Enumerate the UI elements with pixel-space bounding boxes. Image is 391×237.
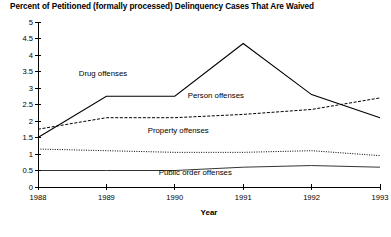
chart-container: Percent of Petitioned (formally processe… [0, 0, 391, 237]
x-tick-label: 1988 [30, 193, 47, 202]
series-line [38, 98, 380, 129]
x-axis-tick-labels: 198819891990199119921993 [30, 193, 389, 202]
x-axis-title: Year [201, 208, 218, 217]
x-tick-label: 1993 [372, 193, 389, 202]
y-tick-label: 1 [29, 150, 33, 159]
data-series-group [38, 43, 380, 170]
y-tick-label: 3.5 [22, 67, 33, 76]
series-label: Drug offenses [79, 69, 128, 78]
y-tick-label: 4 [29, 51, 33, 60]
y-tick-label: 4.5 [22, 34, 33, 43]
series-label: Person offenses [188, 91, 244, 100]
series-annotation-labels: Drug offensesPerson offensesProperty off… [79, 69, 244, 177]
line-chart-plot: 00.511.522.533.544.55 198819891990199119… [0, 0, 391, 237]
x-tick-label: 1992 [303, 193, 320, 202]
y-tick-label: 1.5 [22, 133, 33, 142]
x-tick-label: 1991 [235, 193, 252, 202]
y-tick-label: 0 [29, 183, 33, 192]
series-line [38, 149, 380, 156]
series-label: Public order offenses [159, 168, 232, 177]
series-label: Property offenses [148, 126, 209, 135]
y-axis-tick-labels: 00.511.522.533.544.55 [22, 18, 33, 192]
x-tick-label: 1990 [166, 193, 183, 202]
y-tick-label: 3 [29, 84, 33, 93]
y-tick-label: 2.5 [22, 100, 33, 109]
x-tick-label: 1989 [98, 193, 115, 202]
y-tick-label: 2 [29, 117, 33, 126]
y-tick-label: 5 [29, 18, 33, 27]
y-tick-label: 0.5 [22, 166, 33, 175]
